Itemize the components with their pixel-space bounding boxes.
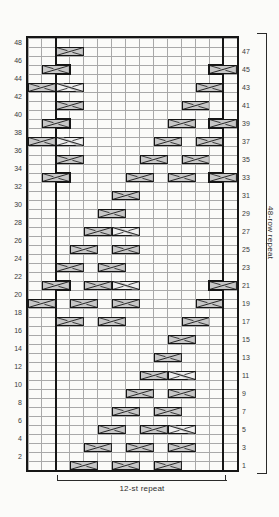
grid-line-h	[28, 362, 237, 363]
grid-line-h	[28, 434, 237, 435]
row-number-right: 31	[242, 191, 264, 200]
cable-symbol-right-cross	[98, 317, 126, 326]
cable-symbol-right-cross	[70, 299, 98, 308]
repeat-line-jog	[208, 118, 224, 120]
row-repeat-label: 48-row repeat	[266, 206, 275, 259]
row-number-right: 47	[242, 47, 264, 56]
row-number-right: 45	[242, 65, 264, 74]
cable-symbol-right-cross	[112, 407, 140, 416]
row-number-left: 44	[0, 74, 22, 83]
cable-symbol-right-cross	[98, 425, 126, 434]
cable-symbol-right-cross	[70, 245, 98, 254]
stitch-repeat-line-right	[222, 289, 224, 472]
cable-symbol-right-cross	[182, 101, 210, 110]
cable-symbol-right-cross	[84, 227, 112, 236]
row-number-right: 15	[242, 335, 264, 344]
row-number-left: 30	[0, 200, 22, 209]
row-number-right: 23	[242, 263, 264, 272]
cable-symbol-right-cross	[140, 155, 168, 164]
cable-symbol-right-cross	[182, 317, 210, 326]
cable-symbol-right-cross	[56, 101, 84, 110]
grid-line-h	[28, 218, 237, 219]
row-number-right: 1	[242, 461, 264, 470]
row-number-left: 10	[0, 380, 22, 389]
cable-symbol-left-cross	[168, 425, 196, 434]
row-repeat-bracket	[257, 473, 266, 474]
cable-symbol-right-cross	[154, 407, 182, 416]
cable-symbol-right-cross	[126, 173, 154, 182]
row-number-left: 36	[0, 146, 22, 155]
cable-symbol-right-cross	[28, 137, 56, 146]
cable-symbol-right-cross	[28, 299, 56, 308]
repeat-line-jog	[69, 118, 71, 129]
row-number-right: 37	[242, 137, 264, 146]
row-number-left: 42	[0, 92, 22, 101]
repeat-line-jog	[208, 64, 224, 66]
cable-symbol-left-cross	[112, 281, 140, 290]
cable-symbol-right-cross	[112, 299, 140, 308]
grid-line-h	[28, 209, 237, 210]
cable-symbol-right-cross	[182, 155, 210, 164]
grid-line-h	[28, 371, 237, 372]
row-number-right: 17	[242, 317, 264, 326]
row-number-right: 13	[242, 353, 264, 362]
cable-symbol-right-cross	[126, 389, 154, 398]
repeat-line-jog	[208, 118, 210, 129]
cable-symbol-right-cross	[98, 209, 126, 218]
cable-symbol-right-cross	[168, 443, 196, 452]
row-number-right: 7	[242, 407, 264, 416]
stitch-repeat-line-left	[55, 181, 57, 282]
row-number-left: 38	[0, 128, 22, 137]
cable-symbol-right-cross	[112, 191, 140, 200]
row-number-left: 24	[0, 254, 22, 263]
row-number-left: 16	[0, 326, 22, 335]
cable-symbol-right-cross	[168, 173, 196, 182]
repeat-line-jog	[208, 172, 210, 183]
cable-symbol-right-cross	[70, 461, 98, 470]
repeat-line-jog	[69, 280, 71, 291]
row-number-right: 35	[242, 155, 264, 164]
stitch-repeat-bracket	[225, 475, 226, 482]
repeat-line-jog	[208, 280, 210, 291]
cable-symbol-right-cross	[84, 281, 112, 290]
stitch-repeat-line-left	[55, 36, 57, 66]
cable-symbol-right-cross	[28, 83, 56, 92]
row-number-right: 11	[242, 371, 264, 380]
cable-symbol-right-cross	[56, 317, 84, 326]
row-number-right: 19	[242, 299, 264, 308]
row-number-left: 4	[0, 434, 22, 443]
stitch-repeat-line-left	[55, 289, 57, 472]
row-number-right: 9	[242, 389, 264, 398]
row-number-left: 22	[0, 272, 22, 281]
cable-symbol-right-cross	[140, 371, 168, 380]
stitch-repeat-line-right	[222, 127, 224, 174]
grid-line-h	[28, 38, 237, 39]
row-number-left: 48	[0, 38, 22, 47]
knitting-chart: 4846444240383634323028262422201816141210…	[0, 0, 279, 517]
cable-symbol-right-cross	[196, 299, 224, 308]
stitch-repeat-line-left	[55, 127, 57, 174]
cable-symbol-right-cross	[112, 245, 140, 254]
row-number-left: 18	[0, 308, 22, 317]
cable-symbol-left-cross	[56, 83, 84, 92]
cable-symbol-right-cross	[168, 389, 196, 398]
cable-symbol-right-cross	[154, 461, 182, 470]
cable-symbol-right-cross	[140, 425, 168, 434]
cable-symbol-right-cross	[196, 83, 224, 92]
row-number-right: 21	[242, 281, 264, 290]
row-number-left: 2	[0, 452, 22, 461]
row-number-right: 29	[242, 209, 264, 218]
cable-symbol-right-cross	[196, 137, 224, 146]
repeat-line-jog	[208, 172, 224, 174]
grid-line-h	[28, 425, 237, 426]
cable-symbol-left-cross	[168, 371, 196, 380]
cable-symbol-right-cross	[56, 263, 84, 272]
cable-symbol-right-cross	[154, 353, 182, 362]
stitch-repeat-line-right	[222, 181, 224, 282]
stitch-repeat-bracket	[57, 475, 58, 482]
row-number-left: 28	[0, 218, 22, 227]
row-number-left: 8	[0, 398, 22, 407]
row-number-right: 33	[242, 173, 264, 182]
cable-symbol-right-cross	[168, 119, 196, 128]
row-number-left: 40	[0, 110, 22, 119]
